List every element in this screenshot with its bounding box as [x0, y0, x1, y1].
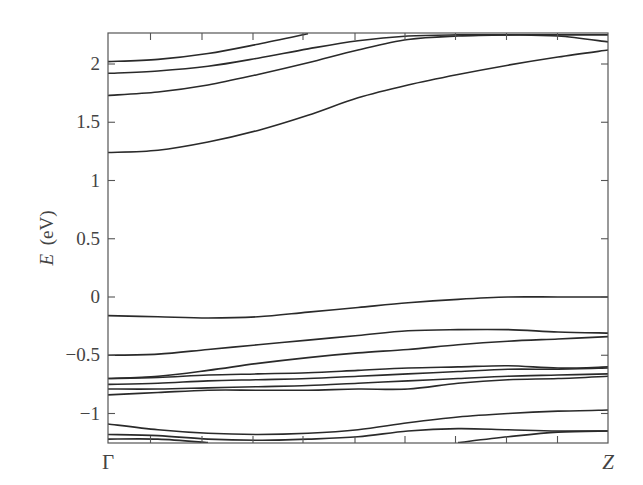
band-line-valence-1 — [108, 297, 608, 318]
band-line-conduction-3 — [108, 35, 608, 74]
band-line-valence-7 — [108, 376, 608, 395]
y-tick-label: 0 — [91, 286, 101, 307]
y-axis-ticks: −1−0.500.511.52 — [66, 53, 608, 424]
y-tick-label: −0.5 — [66, 344, 100, 365]
y-tick-label: 1.5 — [76, 111, 100, 132]
band-line-valence-10 — [458, 431, 608, 443]
y-tick-label: 0.5 — [76, 228, 100, 249]
band-lines — [108, 34, 608, 443]
y-axis-label: E (eV) — [36, 210, 58, 266]
band-line-conduction-2 — [108, 35, 608, 96]
y-tick-label: 1 — [91, 170, 101, 191]
band-structure-chart: −1−0.500.511.52 ΓZ E (eV) — [0, 0, 643, 485]
y-tick-label: 2 — [91, 53, 101, 74]
band-line-conduction-1 — [108, 50, 608, 153]
x-axis-kpoint-labels: ΓZ — [102, 450, 614, 474]
band-line-conduction-4 — [108, 34, 308, 62]
y-tick-label: −1 — [80, 403, 100, 424]
kpoint-label-gamma: Γ — [102, 450, 114, 474]
kpoint-label-z: Z — [602, 450, 614, 474]
band-line-valence-3 — [108, 337, 608, 379]
band-line-valence-2 — [108, 329, 608, 355]
band-line-valence-10 — [108, 439, 208, 443]
